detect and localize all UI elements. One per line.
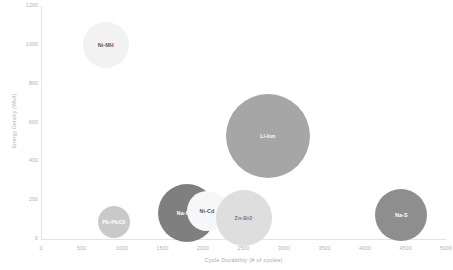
y-axis-title: Energy Density (Wh/l) <box>11 71 17 171</box>
bubble-label: Ni-MH <box>98 42 114 48</box>
bubble-zn-br2[interactable]: Zn-Br2 <box>216 190 272 246</box>
plot-area: Ni-MHPb-PbO2Na-NiClNi-CdZn-Br2Li-IonNa-S <box>0 0 453 270</box>
bubble-label: Na-S <box>395 212 408 218</box>
bubble-na-s[interactable]: Na-S <box>375 189 427 241</box>
bubble-label: Pb-PbO2 <box>102 219 125 225</box>
bubble-label: Li-Ion <box>260 133 275 139</box>
x-axis-title: Cycle Durability (# of cycles) <box>41 257 446 263</box>
bubble-label: Zn-Br2 <box>235 215 253 221</box>
bubble-chart: 020040060080010001200 050010001500200025… <box>0 0 453 270</box>
bubble-ni-mh[interactable]: Ni-MH <box>83 22 129 68</box>
bubble-li-ion[interactable]: Li-Ion <box>226 94 310 178</box>
bubble-pb-pbo2[interactable]: Pb-PbO2 <box>98 206 130 238</box>
bubble-label: Ni-Cd <box>200 208 215 214</box>
